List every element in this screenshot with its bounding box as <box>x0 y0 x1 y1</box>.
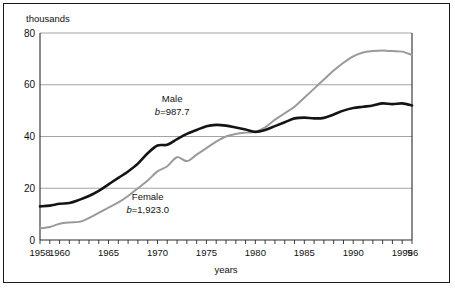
y-tick-label: 80 <box>24 28 36 39</box>
x-axis-title: years <box>214 264 237 275</box>
x-tick-label: 1960 <box>49 247 70 258</box>
series-b-annotation: b=987.7 <box>155 106 190 117</box>
x-tick-label: 1975 <box>196 247 217 258</box>
x-tick-label: 1980 <box>245 247 266 258</box>
series-b-annotation: b=1,923.0 <box>126 204 169 215</box>
x-tick-label: 1970 <box>147 247 168 258</box>
x-tick-label: 1965 <box>98 247 119 258</box>
chart-svg: thousands0204060801958196019651970197519… <box>0 0 455 288</box>
series-name-annotation: Female <box>132 191 164 202</box>
line-chart: thousands0204060801958196019651970197519… <box>0 0 455 288</box>
y-axis-units-label: thousands <box>26 13 70 24</box>
y-tick-label: 20 <box>24 183 36 194</box>
series-line-male <box>40 103 412 206</box>
x-tick-label: 1985 <box>294 247 315 258</box>
x-tick-label: 1958 <box>29 247 50 258</box>
series-name-annotation: Male <box>162 93 183 104</box>
series-line-female <box>40 51 412 229</box>
x-tick-label: 1990 <box>343 247 364 258</box>
y-tick-label: 60 <box>24 79 36 90</box>
x-tick-label: '96 <box>406 247 418 258</box>
y-tick-label: 0 <box>29 235 35 246</box>
y-tick-label: 40 <box>24 131 36 142</box>
